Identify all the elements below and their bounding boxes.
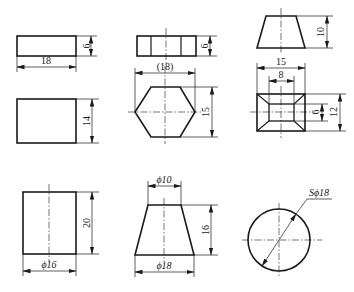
view-cylinder-front: 20 ϕ16 [23, 184, 99, 276]
drawing-canvas: 6 18 6 10 14 (1 [0, 0, 354, 292]
dim-outer-width: 15 [276, 56, 286, 67]
dim-top-diameter: ϕ10 [156, 174, 171, 185]
dim-across-corners: (18) [157, 61, 174, 73]
dim-height: 6 [199, 44, 210, 49]
dim-outer-height: 12 [328, 107, 339, 117]
dim-height: 16 [200, 225, 211, 235]
dim-bottom-diameter: ϕ18 [156, 260, 171, 271]
view-cone-frustum-front: ϕ10 16 ϕ18 [135, 174, 218, 277]
dim-height: 20 [81, 218, 92, 228]
view-frustum-pyramid-top: 15 8 6 12 [250, 56, 346, 138]
view-prism-front: 6 18 [17, 36, 97, 72]
dim-diameter: ϕ16 [41, 259, 56, 270]
dim-sphere-diameter: Sϕ18 [309, 187, 329, 198]
dim-width: 18 [41, 55, 51, 66]
dim-height: 14 [81, 116, 92, 126]
dim-height: 6 [81, 44, 92, 49]
view-prism-top: 14 [17, 99, 99, 143]
dim-height: 10 [315, 27, 326, 37]
dim-across-flats: 15 [200, 107, 211, 117]
view-sphere: Sϕ18 [242, 187, 332, 277]
view-frustum-pyramid-front: 10 [257, 8, 333, 54]
dim-inner-height: 6 [310, 110, 321, 115]
view-hex-prism-front: 6 [137, 28, 217, 64]
dim-inner-width: 8 [279, 69, 284, 80]
view-hex-prism-top: (18) 15 [128, 61, 218, 144]
